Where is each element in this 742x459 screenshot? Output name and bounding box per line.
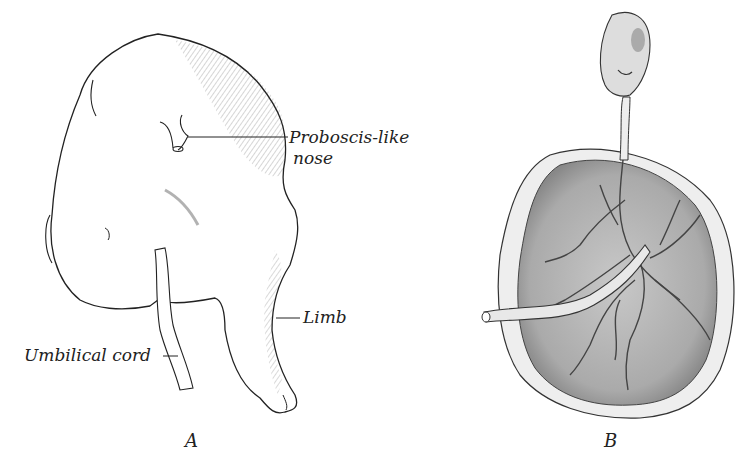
caption-b: B	[604, 430, 617, 451]
label-nose: nose	[293, 150, 333, 167]
label-proboscis-like: Proboscis-like	[289, 129, 409, 146]
label-umbilical-cord: Umbilical cord	[24, 347, 151, 364]
illustration	[0, 0, 742, 459]
label-limb: Limb	[303, 309, 347, 326]
placenta-b	[482, 13, 734, 419]
caption-a: A	[185, 430, 198, 451]
